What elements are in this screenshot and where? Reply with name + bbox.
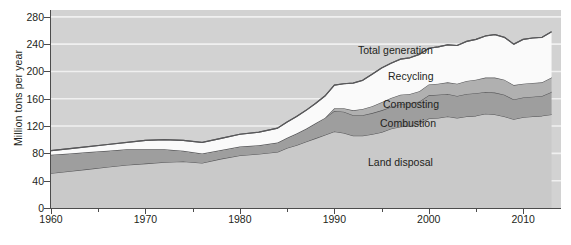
x-axis-tick-label: 2000	[409, 213, 449, 225]
series-label-land-disposal: Land disposal	[368, 156, 433, 168]
x-axis-tick-label: 2010	[503, 213, 543, 225]
x-axis-tick-label: 1980	[220, 213, 260, 225]
series-label-recycling: Recycling	[388, 70, 434, 82]
x-axis-tick-mark	[334, 208, 335, 214]
x-axis-tick-mark	[145, 208, 146, 214]
series-label-total-generation: Total generation	[358, 44, 433, 56]
x-axis-tick-mark	[429, 208, 430, 214]
x-axis-tick-label: 1960	[31, 213, 71, 225]
x-axis-tick-mark	[240, 208, 241, 214]
x-axis-minor-tick-mark	[193, 208, 194, 212]
stacked-area-chart: Million tons per year 040801201602002402…	[0, 0, 571, 245]
x-axis-tick-labels: 196019701980199020002010	[0, 0, 571, 245]
x-axis-minor-tick-mark	[382, 208, 383, 212]
x-axis-minor-tick-mark	[98, 208, 99, 212]
x-axis-tick-mark	[523, 208, 524, 214]
series-label-combustion: Combustion	[380, 117, 436, 129]
x-axis-tick-mark	[51, 208, 52, 214]
series-label-composting: Composting	[383, 98, 439, 110]
x-axis-minor-tick-mark	[287, 208, 288, 212]
x-axis-tick-label: 1970	[125, 213, 165, 225]
x-axis-minor-tick-mark	[476, 208, 477, 212]
x-axis-tick-label: 1990	[314, 213, 354, 225]
